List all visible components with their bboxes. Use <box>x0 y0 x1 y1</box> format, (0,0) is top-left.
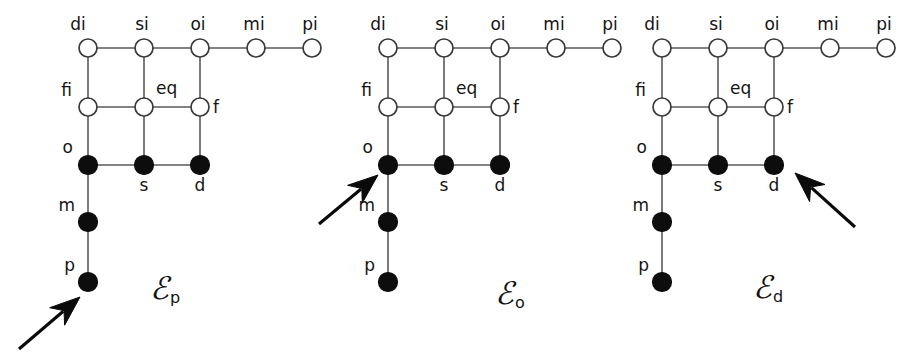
node-marker-open <box>247 39 265 57</box>
node-marker-filled <box>653 156 672 175</box>
node-marker-filled <box>79 213 98 232</box>
graph-node-mi[interactable]: mi <box>543 14 565 57</box>
node-marker-filled <box>653 273 672 292</box>
node-label-fi: fi <box>635 80 646 100</box>
graph-node-s[interactable]: s <box>135 156 154 196</box>
graph-diagram-svg: disioimipifieqfosdmpdisioimipifieqfosdmp… <box>0 0 921 362</box>
node-label-pi: pi <box>302 14 318 34</box>
caption-subscript: p <box>170 288 180 307</box>
node-marker-filled <box>709 156 728 175</box>
node-label-m: m <box>358 195 375 215</box>
graph-node-m[interactable]: m <box>58 195 97 232</box>
node-marker-open <box>491 39 509 57</box>
node-marker-filled <box>379 213 398 232</box>
node-label-oi: oi <box>190 14 205 34</box>
graph-node-pi[interactable]: pi <box>602 14 621 57</box>
pointer-arrow-p <box>19 297 80 349</box>
node-label-eq: eq <box>730 78 751 98</box>
node-label-s: s <box>440 175 449 195</box>
caption-subscript: o <box>515 293 525 312</box>
figure-canvas: disioimipifieqfosdmpdisioimipifieqfosdmp… <box>0 0 921 362</box>
graph-node-fi[interactable]: fi <box>361 80 397 116</box>
graph-node-o[interactable]: o <box>63 137 98 175</box>
node-marker-filled <box>435 156 454 175</box>
node-marker-filled <box>765 156 784 175</box>
graph-node-o[interactable]: o <box>363 137 398 175</box>
panel-caption-eo: ℰo <box>495 278 525 311</box>
graph-node-m[interactable]: m <box>632 195 671 232</box>
node-label-eq: eq <box>456 78 477 98</box>
graph-node-si[interactable]: si <box>435 14 453 57</box>
graph-node-oi[interactable]: oi <box>490 14 509 57</box>
graph-node-p[interactable]: p <box>364 255 397 292</box>
node-label-p: p <box>64 255 75 275</box>
node-label-si: si <box>435 14 449 34</box>
graph-node-d[interactable]: d <box>191 156 210 196</box>
caption-subscript: d <box>773 287 783 306</box>
graph-node-mi[interactable]: mi <box>817 14 839 57</box>
graph-node-o[interactable]: o <box>637 137 672 175</box>
node-marker-open <box>653 39 671 57</box>
caption-script-e: ℰ <box>150 270 169 306</box>
graph-node-oi[interactable]: oi <box>190 14 209 57</box>
node-marker-open <box>79 98 97 116</box>
panel-ed: disioimipifieqfosdmp <box>632 14 895 292</box>
node-label-m: m <box>58 195 75 215</box>
graph-node-eq[interactable]: eq <box>135 78 177 116</box>
panel-caption-ep: ℰp <box>150 273 180 306</box>
graph-node-mi[interactable]: mi <box>243 14 265 57</box>
graph-node-fi[interactable]: fi <box>635 80 671 116</box>
arrow-tail <box>19 311 63 349</box>
node-label-di: di <box>370 14 386 34</box>
graph-node-d[interactable]: d <box>765 156 784 196</box>
arrow-tail <box>319 189 361 224</box>
node-label-mi: mi <box>817 14 838 34</box>
arrow-tail <box>811 188 855 227</box>
graph-node-oi[interactable]: oi <box>764 14 783 57</box>
node-label-d: d <box>495 175 506 195</box>
node-marker-open <box>653 98 671 116</box>
graph-node-di[interactable]: di <box>370 14 397 57</box>
node-label-s: s <box>140 175 149 195</box>
node-marker-open <box>877 39 895 57</box>
graph-node-si[interactable]: si <box>709 14 727 57</box>
graph-node-eq[interactable]: eq <box>709 78 751 116</box>
node-label-f: f <box>513 97 520 117</box>
node-marker-filled <box>491 156 510 175</box>
node-label-pi: pi <box>602 14 618 34</box>
node-label-p: p <box>638 255 649 275</box>
node-marker-open <box>191 39 209 57</box>
graph-node-di[interactable]: di <box>644 14 671 57</box>
node-marker-open <box>379 39 397 57</box>
node-label-si: si <box>135 14 149 34</box>
node-label-fi: fi <box>61 80 72 100</box>
node-label-m: m <box>632 195 649 215</box>
node-label-p: p <box>364 255 375 275</box>
node-marker-open <box>547 39 565 57</box>
graph-node-s[interactable]: s <box>709 156 728 196</box>
graph-node-f[interactable]: f <box>765 97 794 117</box>
graph-node-f[interactable]: f <box>191 97 220 117</box>
node-marker-open <box>709 98 727 116</box>
graph-node-si[interactable]: si <box>135 14 153 57</box>
graph-node-p[interactable]: p <box>638 255 671 292</box>
node-label-oi: oi <box>764 14 779 34</box>
graph-node-s[interactable]: s <box>435 156 454 196</box>
graph-node-f[interactable]: f <box>491 97 520 117</box>
node-label-mi: mi <box>543 14 564 34</box>
graph-node-eq[interactable]: eq <box>435 78 477 116</box>
graph-node-d[interactable]: d <box>491 156 510 196</box>
node-label-d: d <box>769 175 780 195</box>
node-marker-open <box>435 98 453 116</box>
graph-node-p[interactable]: p <box>64 255 97 292</box>
node-marker-open <box>709 39 727 57</box>
node-marker-filled <box>653 213 672 232</box>
node-label-d: d <box>195 175 206 195</box>
graph-node-pi[interactable]: pi <box>876 14 895 57</box>
graph-node-fi[interactable]: fi <box>61 80 97 116</box>
graph-node-di[interactable]: di <box>70 14 97 57</box>
graph-node-m[interactable]: m <box>358 195 397 232</box>
graph-node-pi[interactable]: pi <box>302 14 321 57</box>
node-marker-filled <box>379 273 398 292</box>
node-label-mi: mi <box>243 14 264 34</box>
